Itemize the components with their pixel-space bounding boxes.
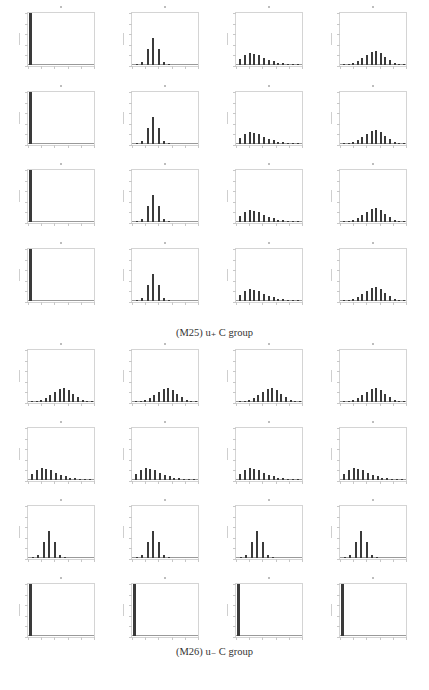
histogram-bar bbox=[343, 474, 345, 480]
y-axis-label bbox=[123, 526, 124, 538]
histogram-bar bbox=[263, 473, 265, 480]
y-tick bbox=[25, 13, 28, 14]
histogram-bar bbox=[158, 392, 160, 402]
y-tick bbox=[337, 212, 340, 213]
histogram-bar bbox=[79, 479, 81, 480]
histogram-bar bbox=[268, 296, 270, 301]
histogram-bar bbox=[37, 555, 39, 558]
x-tick bbox=[68, 66, 69, 69]
y-tick bbox=[337, 191, 340, 192]
histogram-bar bbox=[193, 479, 195, 480]
histogram-bar bbox=[256, 531, 258, 558]
x-tick bbox=[198, 403, 199, 406]
histogram-bar bbox=[282, 142, 284, 144]
histogram-bar bbox=[353, 468, 355, 480]
x-tick bbox=[380, 637, 381, 640]
x-tick bbox=[132, 637, 133, 640]
y-tick bbox=[233, 103, 236, 104]
x-tick bbox=[406, 637, 407, 640]
histogram-bar bbox=[271, 388, 273, 402]
x-tick bbox=[262, 66, 263, 69]
x-tick bbox=[185, 559, 186, 562]
histogram-bar bbox=[240, 557, 242, 558]
y-tick bbox=[25, 249, 28, 250]
histogram-bar bbox=[372, 475, 374, 480]
y-tick bbox=[233, 616, 236, 617]
histogram-bar bbox=[277, 220, 279, 222]
x-tick bbox=[380, 223, 381, 226]
y-tick bbox=[25, 538, 28, 539]
histogram-bar bbox=[389, 296, 391, 301]
histogram-bar bbox=[376, 557, 378, 558]
y-axis-label bbox=[331, 526, 332, 538]
panel-title bbox=[164, 85, 166, 87]
y-tick bbox=[233, 281, 236, 282]
histogram-panel bbox=[339, 169, 407, 224]
x-tick bbox=[302, 403, 303, 406]
y-tick bbox=[129, 181, 132, 182]
y-tick bbox=[337, 55, 340, 56]
histogram-bar bbox=[348, 143, 350, 144]
histogram-bar bbox=[343, 401, 345, 402]
histogram-bar bbox=[366, 212, 368, 222]
x-tick bbox=[393, 481, 394, 484]
y-tick bbox=[129, 170, 132, 171]
histogram-bar bbox=[257, 395, 259, 402]
panel-title bbox=[60, 499, 62, 501]
histogram-bar bbox=[380, 390, 382, 402]
x-tick bbox=[340, 559, 341, 562]
y-tick bbox=[25, 181, 28, 182]
histogram-bar bbox=[268, 60, 270, 65]
histogram-bar bbox=[158, 285, 160, 301]
x-tick bbox=[68, 637, 69, 640]
y-tick bbox=[25, 134, 28, 135]
histogram-bar bbox=[384, 293, 386, 301]
x-tick bbox=[132, 481, 133, 484]
panel-title bbox=[372, 85, 374, 87]
histogram-bar bbox=[258, 55, 260, 65]
histogram-bar bbox=[389, 217, 391, 222]
histogram-bar bbox=[263, 137, 265, 144]
histogram-bar bbox=[292, 479, 294, 480]
x-tick bbox=[68, 223, 69, 226]
histogram-bar bbox=[249, 132, 251, 144]
x-tick bbox=[145, 637, 146, 640]
x-tick bbox=[289, 66, 290, 69]
x-tick bbox=[302, 223, 303, 226]
x-tick bbox=[28, 403, 29, 406]
x-tick bbox=[132, 145, 133, 148]
y-tick bbox=[233, 506, 236, 507]
histogram-bar bbox=[396, 479, 398, 480]
histogram-bar bbox=[371, 288, 373, 301]
histogram-bar bbox=[375, 287, 377, 301]
x-tick bbox=[68, 481, 69, 484]
y-axis-label bbox=[227, 33, 228, 45]
y-tick bbox=[25, 382, 28, 383]
x-tick bbox=[340, 145, 341, 148]
x-tick bbox=[406, 559, 407, 562]
y-axis-label bbox=[19, 526, 20, 538]
y-tick bbox=[337, 249, 340, 250]
x-tick bbox=[236, 559, 237, 562]
histogram-bar bbox=[149, 398, 151, 402]
y-tick bbox=[25, 92, 28, 93]
histogram-bar bbox=[371, 555, 373, 558]
y-tick bbox=[233, 34, 236, 35]
histogram-bar bbox=[277, 63, 279, 65]
histogram-bar bbox=[29, 170, 32, 222]
y-tick bbox=[129, 281, 132, 282]
histogram-bar bbox=[375, 51, 377, 65]
panel-title bbox=[372, 163, 374, 165]
x-tick bbox=[94, 145, 95, 148]
x-tick bbox=[158, 145, 159, 148]
x-tick bbox=[393, 223, 394, 226]
histogram-panel bbox=[131, 583, 199, 638]
x-tick bbox=[198, 66, 199, 69]
y-tick bbox=[129, 517, 132, 518]
histogram-bar bbox=[292, 64, 294, 65]
histogram-bar bbox=[384, 57, 386, 65]
histogram-bar bbox=[272, 557, 274, 558]
y-tick bbox=[337, 13, 340, 14]
y-tick bbox=[129, 260, 132, 261]
histogram-bar bbox=[84, 479, 86, 480]
